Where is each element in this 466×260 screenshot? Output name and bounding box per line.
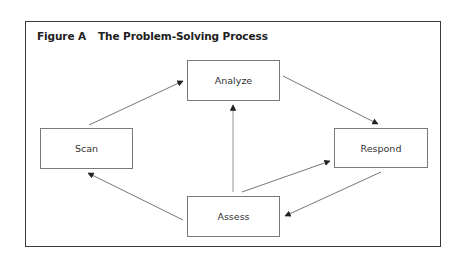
arrow-assess-to-scan [88,173,183,220]
node-assess: Assess [187,196,280,237]
arrow-respond-to-assess [285,172,381,216]
node-respond-label: Respond [361,143,402,154]
arrow-analyze-to-respond [283,76,378,124]
arrow-scan-to-analyze [89,81,183,125]
node-assess-label: Assess [217,211,249,222]
node-analyze: Analyze [187,60,280,101]
node-scan: Scan [40,128,133,169]
node-analyze-label: Analyze [215,75,252,86]
node-respond: Respond [334,128,428,168]
node-scan-label: Scan [75,143,98,154]
arrow-assess-to-respond [242,161,330,192]
